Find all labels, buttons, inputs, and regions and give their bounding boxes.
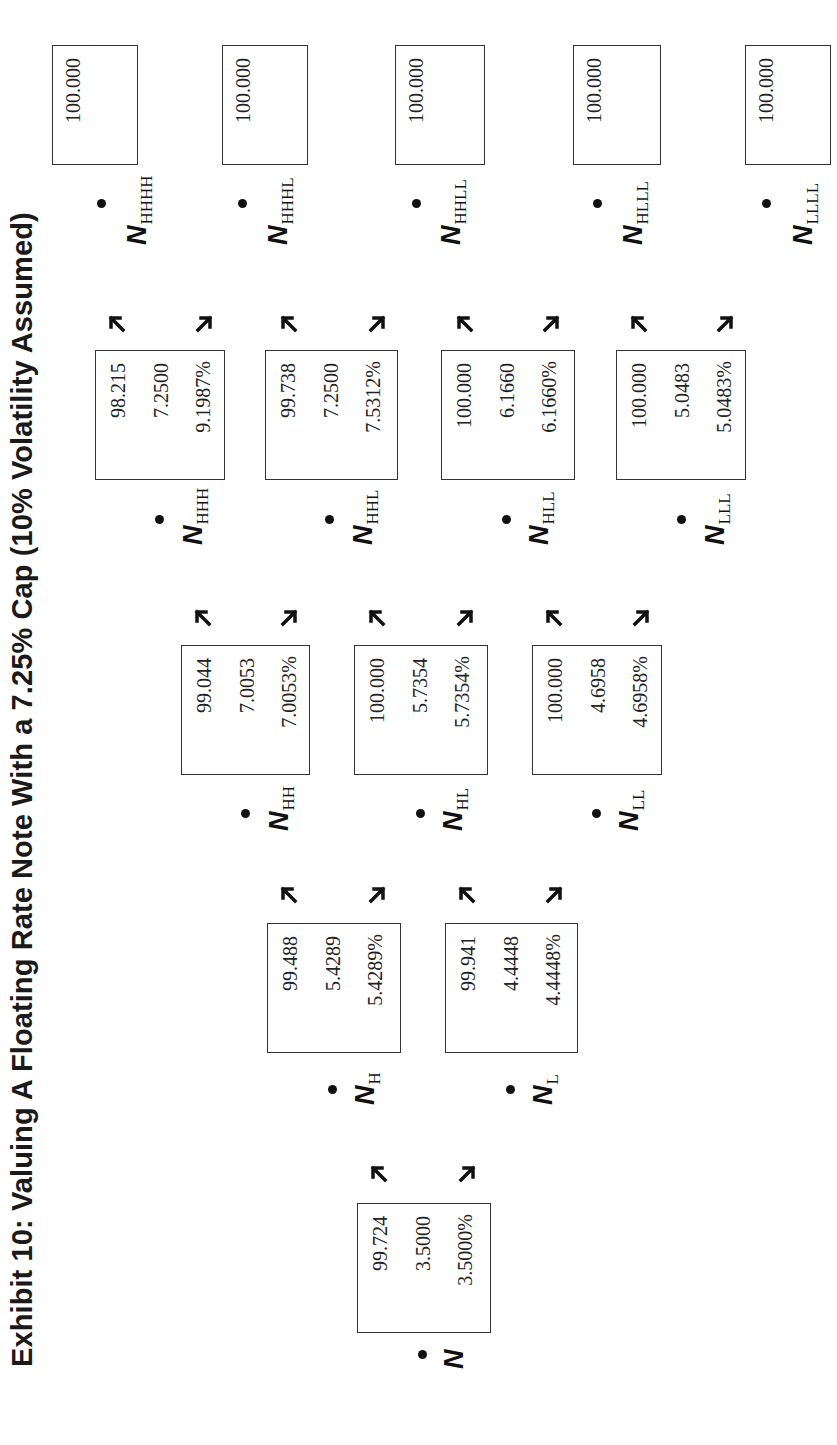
arrow-down-icon (632, 609, 650, 627)
node-value: 100.000 (584, 58, 604, 123)
node-value: 99.724 (370, 1216, 390, 1271)
node-value: 98.215 (108, 363, 128, 418)
node-value: 99.941 (458, 936, 478, 991)
exhibit-title: Exhibit 10: Valuing A Floating Rate Note… (6, 212, 39, 1367)
node-dot (502, 515, 511, 524)
node-cash-flow: 5.4289 (323, 936, 343, 991)
node-cash-flow: 7.2500 (151, 363, 171, 418)
arrow-up-icon (194, 609, 212, 627)
node-label-nhl: NHL (440, 788, 471, 831)
node-rate: 7.0053% (279, 656, 299, 728)
node-value: 100.000 (629, 363, 649, 428)
node-rate: 5.0483% (714, 361, 734, 433)
arrow-up-icon (108, 315, 126, 333)
node-dot (155, 515, 164, 524)
node-label-nl: NL (530, 1074, 561, 1105)
binomial-tree-diagram: Exhibit 10: Valuing A Floating Rate Note… (0, 0, 837, 1445)
node-label-nhh: NHH (266, 786, 297, 831)
node-rate: 5.4289% (365, 934, 385, 1006)
node-label-nhhll: NHHLL (438, 179, 469, 245)
node-dot (412, 199, 421, 208)
arrow-down-icon (280, 609, 298, 627)
node-box-nlll: 100.000 5.0483 5.0483% (616, 350, 746, 480)
arrow-down-icon (458, 1165, 476, 1183)
arrow-down-icon (195, 315, 213, 333)
node-box-nhhll: 100.000 (395, 45, 485, 165)
arrow-up-icon (368, 609, 386, 627)
arrow-up-icon (280, 886, 298, 904)
node-rate: 5.7354% (452, 656, 472, 728)
node-rate: 9.1987% (193, 361, 213, 433)
arrow-up-icon (456, 315, 474, 333)
node-dot (97, 199, 106, 208)
arrow-down-icon (716, 315, 734, 333)
arrow-down-icon (456, 609, 474, 627)
node-box-nhhhl: 100.000 (222, 45, 308, 165)
node-box-n: 99.724 3.5000 3.5000% (357, 1203, 491, 1333)
arrow-down-icon (542, 315, 560, 333)
node-value: 100.000 (63, 58, 83, 123)
node-label-nhhhl: NHHHL (265, 177, 296, 245)
node-rate: 6.1660% (539, 361, 559, 433)
node-rate: 7.5312% (363, 361, 383, 433)
node-dot (238, 199, 247, 208)
node-value: 100.000 (406, 58, 426, 123)
node-box-nl: 99.941 4.4448 4.4448% (445, 923, 578, 1053)
node-label-nhhl: NHHL (350, 490, 381, 545)
node-label-n: N (441, 1349, 472, 1370)
node-value: 100.000 (454, 363, 474, 428)
node-box-nhl: 100.000 5.7354 5.7354% (354, 645, 488, 775)
node-cash-flow: 5.0483 (672, 363, 692, 418)
node-value: 100.000 (367, 658, 387, 723)
node-rate: 3.5000% (455, 1214, 475, 1286)
node-label-nhll: NHLL (526, 491, 557, 545)
node-label-nllll: NLLLL (790, 183, 821, 245)
node-box-nhh: 99.044 7.0053 7.0053% (181, 645, 310, 775)
node-value: 100.000 (233, 58, 253, 123)
node-value: 99.044 (194, 658, 214, 713)
node-label-nhhh: NHHH (180, 488, 211, 545)
node-label-nhhhh: NHHHH (124, 175, 155, 245)
node-value: 99.488 (280, 936, 300, 991)
node-box-nhhl: 99.738 7.2500 7.5312% (265, 350, 398, 480)
node-dot (506, 1085, 515, 1094)
node-cash-flow: 6.1660 (497, 363, 517, 418)
node-box-nhhhh: 100.000 (52, 45, 138, 165)
arrow-up-icon (458, 886, 476, 904)
node-dot (677, 515, 686, 524)
node-cash-flow: 5.7354 (410, 658, 430, 713)
node-value: 100.000 (756, 58, 776, 123)
node-box-nhlll: 100.000 (573, 45, 661, 165)
node-label-nhlll: NHLLL (620, 181, 651, 245)
node-cash-flow: 4.6958 (588, 658, 608, 713)
node-box-nhll: 100.000 6.1660 6.1660% (441, 350, 575, 480)
node-box-nh: 99.488 5.4289 5.4289% (267, 923, 401, 1053)
node-dot (325, 515, 334, 524)
node-box-nhhh: 98.215 7.2500 9.1987% (95, 350, 225, 480)
node-rate: 4.4448% (543, 934, 563, 1006)
node-rate: 4.6958% (630, 656, 650, 728)
node-dot (762, 199, 771, 208)
arrow-down-icon (368, 315, 386, 333)
node-box-nll: 100.000 4.6958 4.6958% (532, 645, 662, 775)
node-dot (593, 199, 602, 208)
arrow-up-icon (630, 315, 648, 333)
node-label-nh: NH (352, 1072, 383, 1105)
node-dot (416, 809, 425, 818)
node-dot (418, 1350, 427, 1359)
node-dot (592, 809, 601, 818)
node-cash-flow: 7.0053 (237, 658, 257, 713)
node-label-nlll: NLLL (702, 493, 733, 545)
node-cash-flow: 7.2500 (321, 363, 341, 418)
node-dot (328, 1085, 337, 1094)
node-cash-flow: 4.4448 (501, 936, 521, 991)
node-label-nll: NLL (616, 790, 647, 831)
node-box-nllll: 100.000 (745, 45, 831, 165)
arrow-down-icon (368, 886, 386, 904)
node-value: 100.000 (545, 658, 565, 723)
arrow-up-icon (370, 1165, 388, 1183)
arrow-down-icon (545, 886, 563, 904)
arrow-up-icon (545, 609, 563, 627)
arrow-up-icon (280, 315, 298, 333)
node-dot (241, 809, 250, 818)
